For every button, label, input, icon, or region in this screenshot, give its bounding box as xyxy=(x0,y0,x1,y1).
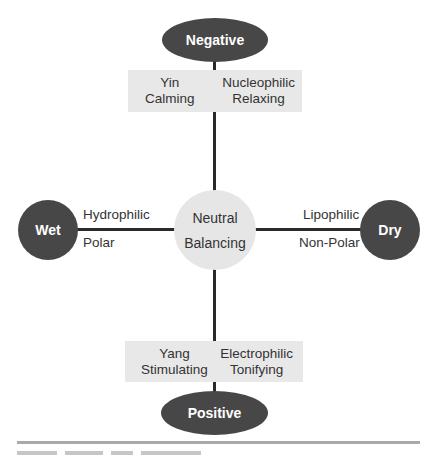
polar-label: Polar xyxy=(83,235,115,250)
relaxing-label: Relaxing xyxy=(232,91,285,107)
wet-node-label: Wet xyxy=(35,222,60,238)
neutral-node: Neutral Balancing xyxy=(174,190,256,270)
bottom-property-box: Yang Stimulating Electrophilic Tonifying xyxy=(125,341,303,382)
positive-node-label: Positive xyxy=(188,405,242,421)
top-box-right-column: Nucleophilic Relaxing xyxy=(222,75,302,107)
yang-label: Yang xyxy=(159,346,190,362)
electrophilic-label: Electrophilic xyxy=(220,346,293,362)
yin-label: Yin xyxy=(160,75,179,91)
dry-node: Dry xyxy=(360,200,420,260)
top-property-box: Yin Calming Nucleophilic Relaxing xyxy=(128,70,302,112)
neutral-label: Neutral xyxy=(192,211,237,225)
lipophilic-label: Lipophilic xyxy=(303,207,359,222)
dry-node-label: Dry xyxy=(378,222,401,238)
nucleophilic-label: Nucleophilic xyxy=(222,75,295,91)
bottom-box-right-column: Electrophilic Tonifying xyxy=(220,346,303,378)
horizontal-axis-line-right xyxy=(255,228,363,231)
bottom-box-left-column: Yang Stimulating xyxy=(125,346,208,378)
calming-label: Calming xyxy=(145,91,195,107)
figure-divider-rule xyxy=(17,441,420,444)
negative-node: Negative xyxy=(162,18,268,62)
horizontal-axis-line-left xyxy=(75,228,177,231)
tonifying-label: Tonifying xyxy=(230,362,283,378)
negative-node-label: Negative xyxy=(186,32,244,48)
top-box-left-column: Yin Calming xyxy=(128,75,195,107)
positive-node: Positive xyxy=(161,391,268,435)
stimulating-label: Stimulating xyxy=(141,362,208,378)
non-polar-label: Non-Polar xyxy=(299,235,360,250)
truncated-caption xyxy=(17,451,317,455)
wet-node: Wet xyxy=(18,200,78,260)
balancing-label: Balancing xyxy=(184,236,246,250)
hydrophilic-label: Hydrophilic xyxy=(83,207,150,222)
